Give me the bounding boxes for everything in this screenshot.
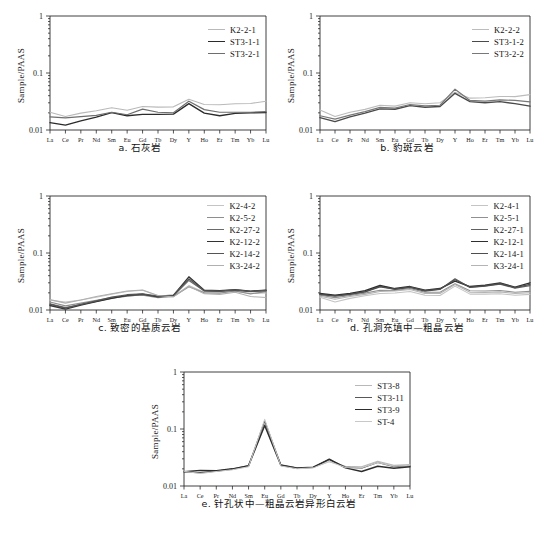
y-tick-label: 0.01 [299, 306, 313, 315]
legend-line-swatch [208, 53, 225, 54]
legend-item[interactable]: K2-4-2 [207, 200, 260, 211]
panel-b-legend: K2-2-2ST3-1-2ST3-2-2 [472, 24, 524, 60]
legend-item[interactable]: K2-27-1 [471, 224, 524, 235]
series-line-st3-1-2 [320, 93, 530, 121]
legend-label: K2-5-2 [229, 213, 255, 223]
legend-item[interactable]: K2-12-2 [207, 236, 260, 247]
legend-label: ST3-1-2 [494, 37, 524, 47]
y-tick-label: 1 [39, 192, 43, 201]
legend-line-swatch [207, 217, 224, 218]
panel-a: 10.10.01LaCePrNdSmEuGdTbDyYHoErTmYbLuSam… [6, 6, 274, 156]
y-tick-label: 0.1 [167, 425, 177, 434]
legend-line-swatch [208, 41, 225, 42]
legend-item[interactable]: K2-5-2 [207, 212, 260, 223]
y-tick-label: 0.1 [33, 69, 43, 78]
legend-item[interactable]: ST3-8 [355, 380, 404, 391]
legend-label: ST-4 [377, 417, 394, 427]
legend-label: K2-2-1 [230, 25, 256, 35]
ree-spider-diagram-figure: 10.10.01LaCePrNdSmEuGdTbDyYHoErTmYbLuSam… [0, 0, 538, 534]
series-line-st3-11 [184, 421, 410, 473]
y-tick-label: 0.1 [303, 249, 313, 258]
legend-line-swatch [471, 205, 488, 206]
panel-d-plot-area: 10.10.01LaCePrNdSmEuGdTbDyYHoErTmYbLuSam… [276, 186, 538, 336]
y-tick-label: 1 [39, 12, 43, 21]
panel-c-plot-area: 10.10.01LaCePrNdSmEuGdTbDyYHoErTmYbLuSam… [6, 186, 274, 336]
legend-label: K3-24-2 [229, 261, 260, 271]
panel-d-y-axis-label: Sample/PAAS [286, 228, 296, 283]
panel-c: 10.10.01LaCePrNdSmEuGdTbDyYHoErTmYbLuSam… [6, 186, 274, 336]
panel-b: 10.10.01LaCePrNdSmEuGdTbDyYHoErTmYbLuSam… [276, 6, 538, 156]
legend-label: K2-4-2 [229, 201, 255, 211]
panel-a-legend: K2-2-1ST3-1-1ST3-2-1 [208, 24, 260, 60]
legend-label: K2-27-1 [493, 225, 524, 235]
legend-label: K2-14-2 [229, 249, 260, 259]
legend-item[interactable]: ST3-11 [355, 392, 404, 403]
legend-label: ST3-2-2 [494, 49, 524, 59]
panel-e-plot-area: 10.10.01LaCePrNdSmEuGdTbDyYHoErTmYbLuSam… [140, 362, 418, 512]
series-line-st3-9 [184, 426, 410, 472]
legend-item[interactable]: K2-2-2 [472, 24, 524, 35]
panel-a-caption: a. 石灰岩 [6, 140, 274, 154]
legend-label: K3-24-1 [493, 261, 524, 271]
legend-label: K2-14-1 [493, 249, 524, 259]
y-tick-label: 0.01 [299, 126, 313, 135]
panel-c-legend: K2-4-2K2-5-2K2-27-2K2-12-2K2-14-2K3-24-2 [207, 200, 260, 272]
legend-label: K2-27-2 [229, 225, 260, 235]
legend-line-swatch [471, 217, 488, 218]
legend-item[interactable]: ST3-9 [355, 404, 404, 415]
series-line-k2-14-2 [50, 279, 266, 308]
legend-line-swatch [355, 397, 372, 398]
legend-item[interactable]: K2-4-1 [471, 200, 524, 211]
legend-label: K2-12-2 [229, 237, 260, 247]
legend-item[interactable]: K2-14-2 [207, 248, 260, 259]
panel-d: 10.10.01LaCePrNdSmEuGdTbDyYHoErTmYbLuSam… [276, 186, 538, 336]
legend-item[interactable]: ST-4 [355, 416, 404, 427]
legend-line-swatch [471, 265, 488, 266]
legend-item[interactable]: ST3-2-2 [472, 48, 524, 59]
panel-a-y-axis-label: Sample/PAAS [16, 48, 26, 103]
legend-line-swatch [207, 205, 224, 206]
legend-line-swatch [355, 385, 372, 386]
legend-line-swatch [355, 409, 372, 410]
panel-e: 10.10.01LaCePrNdSmEuGdTbDyYHoErTmYbLuSam… [140, 362, 418, 512]
legend-line-swatch [472, 29, 489, 30]
series-line-k2-2-2 [320, 92, 530, 116]
legend-line-swatch [471, 229, 488, 230]
y-tick-label: 1 [173, 368, 177, 377]
legend-item[interactable]: K2-5-1 [471, 212, 524, 223]
legend-item[interactable]: ST3-2-1 [208, 48, 260, 59]
legend-label: K2-5-1 [493, 213, 519, 223]
legend-item[interactable]: ST3-1-2 [472, 36, 524, 47]
legend-line-swatch [355, 421, 372, 422]
legend-line-swatch [207, 229, 224, 230]
legend-label: ST3-8 [377, 381, 399, 391]
legend-item[interactable]: K2-12-1 [471, 236, 524, 247]
panel-a-plot-area: 10.10.01LaCePrNdSmEuGdTbDyYHoErTmYbLuSam… [6, 6, 274, 156]
panel-b-plot-area: 10.10.01LaCePrNdSmEuGdTbDyYHoErTmYbLuSam… [276, 6, 538, 156]
legend-item[interactable]: K3-24-1 [471, 260, 524, 271]
y-tick-label: 0.01 [163, 482, 177, 491]
legend-line-swatch [472, 41, 489, 42]
legend-line-swatch [207, 253, 224, 254]
panel-e-y-axis-label: Sample/PAAS [150, 404, 160, 459]
panel-e-legend: ST3-8ST3-11ST3-9ST-4 [355, 380, 404, 428]
series-line-k3-24-2 [50, 286, 266, 303]
panel-b-y-axis-label: Sample/PAAS [286, 48, 296, 103]
legend-item[interactable]: K3-24-2 [207, 260, 260, 271]
panel-b-caption: b. 豹斑云岩 [276, 140, 538, 154]
legend-item[interactable]: K2-27-2 [207, 224, 260, 235]
y-tick-label: 0.1 [33, 249, 43, 258]
legend-item[interactable]: K2-14-1 [471, 248, 524, 259]
legend-line-swatch [207, 265, 224, 266]
legend-label: ST3-11 [377, 393, 404, 403]
legend-item[interactable]: K2-2-1 [208, 24, 260, 35]
legend-label: ST3-1-1 [230, 37, 260, 47]
legend-label: ST3-2-1 [230, 49, 260, 59]
legend-line-swatch [471, 241, 488, 242]
panel-d-caption: d. 孔洞充填中—粗晶云岩 [276, 320, 538, 334]
y-tick-label: 1 [309, 192, 313, 201]
legend-item[interactable]: ST3-1-1 [208, 36, 260, 47]
y-tick-label: 0.1 [303, 69, 313, 78]
legend-label: K2-4-1 [493, 201, 519, 211]
legend-label: K2-2-2 [494, 25, 520, 35]
